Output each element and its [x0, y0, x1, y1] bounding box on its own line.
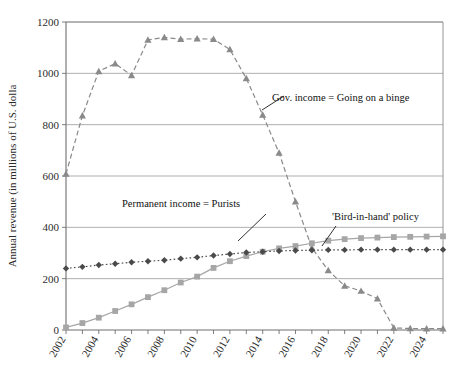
- data-point-square: [112, 308, 118, 314]
- x-axis-ticks: [66, 330, 443, 334]
- y-tick-label: 200: [43, 273, 60, 285]
- x-tick-label: 2014: [243, 334, 265, 359]
- x-tick-label: 2002: [46, 334, 67, 359]
- gridlines: [66, 22, 443, 279]
- data-point-square: [145, 294, 151, 300]
- annotation-label-bird-in-hand: 'Bird-in-hand' policy: [332, 211, 420, 222]
- data-point-square: [440, 233, 446, 239]
- data-point-diamond: [210, 252, 216, 258]
- x-tick-label: 2020: [341, 334, 363, 359]
- data-point-square: [63, 325, 69, 331]
- data-point-square: [96, 315, 102, 321]
- x-tick-label: 2008: [145, 334, 167, 359]
- data-point-triangle: [161, 34, 168, 40]
- data-point-square: [129, 301, 135, 307]
- data-point-triangle: [275, 149, 282, 155]
- data-point-triangle: [357, 287, 364, 293]
- series-1: [62, 34, 446, 332]
- data-point-diamond: [227, 251, 233, 257]
- y-axis-title-text: Annual revenue (in millions of U.S. doll…: [6, 85, 19, 268]
- annotation-layer: Gov. income = Going on a bingePermanent …: [122, 92, 420, 246]
- line-chart: 020040060080010001200 200220042006200820…: [0, 0, 465, 386]
- x-tick-label: 2012: [210, 334, 231, 359]
- x-tick-label: 2004: [79, 334, 101, 359]
- data-point-square: [375, 235, 381, 241]
- series-line: [66, 37, 443, 328]
- data-point-diamond: [374, 246, 380, 252]
- y-tick-label: 600: [43, 170, 60, 182]
- data-point-square: [79, 320, 85, 326]
- data-point-diamond: [112, 261, 118, 267]
- data-point-square: [407, 234, 413, 240]
- data-point-square: [161, 287, 167, 293]
- series-3: [63, 246, 446, 271]
- data-point-square: [194, 274, 200, 280]
- data-point-diamond: [358, 246, 364, 252]
- data-point-triangle: [79, 112, 86, 118]
- y-tick-label: 1200: [37, 16, 60, 28]
- data-point-diamond: [161, 257, 167, 263]
- data-point-diamond: [423, 246, 429, 252]
- series-line: [66, 250, 443, 269]
- chart-figure: 020040060080010001200 200220042006200820…: [0, 0, 465, 386]
- data-point-square: [391, 234, 397, 240]
- y-axis-tick-labels: 020040060080010001200: [37, 16, 60, 336]
- series-2: [63, 233, 446, 330]
- y-tick-label: 800: [43, 119, 60, 131]
- annotation-label-gov-income: Gov. income = Going on a binge: [272, 92, 410, 103]
- x-tick-label: 2018: [309, 334, 331, 359]
- y-axis-title: Annual revenue (in millions of U.S. doll…: [6, 85, 19, 268]
- y-tick-label: 1000: [37, 67, 60, 79]
- x-tick-label: 2006: [112, 334, 134, 359]
- data-point-square: [211, 265, 217, 271]
- x-tick-label: 2024: [407, 334, 429, 359]
- data-point-square: [178, 280, 184, 286]
- data-point-diamond: [194, 254, 200, 260]
- data-point-triangle: [95, 68, 102, 74]
- data-point-diamond: [145, 258, 151, 264]
- data-point-diamond: [63, 265, 69, 271]
- x-tick-label: 2022: [374, 334, 395, 359]
- data-point-diamond: [309, 247, 315, 253]
- data-point-triangle: [325, 267, 332, 273]
- data-point-triangle: [226, 46, 233, 52]
- data-point-diamond: [79, 264, 85, 270]
- x-tick-label: 2016: [276, 334, 298, 359]
- data-series-layer: [62, 34, 446, 332]
- data-point-triangle: [374, 295, 381, 301]
- data-point-triangle: [112, 60, 119, 66]
- data-point-diamond: [407, 246, 413, 252]
- data-point-square: [227, 258, 233, 264]
- data-point-square: [424, 234, 430, 240]
- data-point-diamond: [341, 247, 347, 253]
- data-point-triangle: [243, 75, 250, 81]
- annotation-label-permanent-income: Permanent income = Purists: [122, 198, 240, 209]
- x-tick-label: 2010: [177, 334, 199, 359]
- data-point-diamond: [96, 262, 102, 268]
- data-point-triangle: [390, 324, 397, 330]
- data-point-diamond: [325, 247, 331, 253]
- data-point-triangle: [62, 170, 69, 176]
- data-point-square: [309, 240, 315, 246]
- data-point-diamond: [440, 246, 446, 252]
- x-axis-tick-labels: 2002200420062008201020122014201620182020…: [46, 334, 428, 359]
- data-point-diamond: [391, 246, 397, 252]
- data-point-triangle: [259, 111, 266, 117]
- data-point-diamond: [128, 259, 134, 265]
- data-point-square: [342, 236, 348, 242]
- y-tick-label: 400: [43, 221, 60, 233]
- data-point-diamond: [178, 255, 184, 261]
- data-point-triangle: [128, 72, 135, 78]
- data-point-square: [358, 235, 364, 241]
- data-point-triangle: [292, 198, 299, 204]
